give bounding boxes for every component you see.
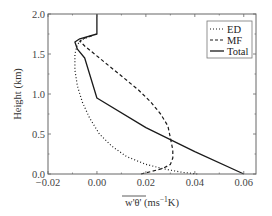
y-tick-label: 0.5	[32, 129, 45, 140]
y-axis-label: Height (km)	[12, 68, 24, 120]
x-axis-label-overlined: w'θ'	[125, 197, 142, 208]
y-tick-labels: 0.00.51.01.52.0	[32, 9, 45, 180]
x-axis-label: w'θ' (ms−1K)	[122, 195, 179, 209]
x-tick-labels: −0.020.000.020.040.06	[36, 177, 253, 188]
legend-label-ed: ED	[227, 24, 241, 35]
legend: ED MF Total	[207, 21, 252, 58]
legend-label-mf: MF	[227, 35, 242, 46]
y-tick-label: 1.5	[32, 49, 45, 60]
x-tick-label: 0.02	[137, 177, 155, 188]
series-mf-line	[80, 36, 173, 174]
series-ed-line	[75, 36, 197, 174]
x-tick-label: 0.06	[235, 177, 253, 188]
x-tick-label: 0.04	[186, 177, 205, 188]
y-tick-label: 2.0	[32, 9, 45, 20]
legend-label-total: Total	[227, 46, 249, 57]
y-tick-label: 0.0	[32, 169, 45, 180]
x-tick-label: 0.00	[88, 177, 106, 188]
x-axis-label-text: w'θ' (ms−1K)	[125, 195, 179, 209]
y-tick-label: 1.0	[32, 89, 45, 100]
line-chart: −0.020.000.020.040.06 0.00.51.01.52.0 He…	[0, 0, 272, 216]
